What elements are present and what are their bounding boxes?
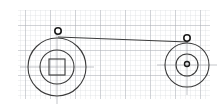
marker-right-tangent-point <box>184 35 190 41</box>
pulley-belt-diagram <box>0 0 223 110</box>
sketch-canvas <box>0 0 223 110</box>
marker-left-tangent-point <box>55 28 61 34</box>
